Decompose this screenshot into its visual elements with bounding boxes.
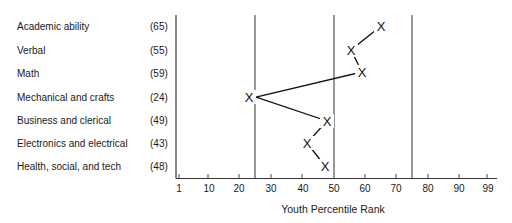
marker-verbal: X — [347, 43, 356, 58]
reference-lines — [255, 15, 412, 179]
marker-mechanical: X — [245, 90, 254, 105]
x-axis-ticks — [179, 174, 487, 178]
tick-label: 80 — [422, 183, 433, 195]
tick-label: 30 — [265, 183, 276, 195]
profile-line — [256, 26, 381, 166]
tick-label: 10 — [203, 183, 214, 195]
profile-chart: X X X X X X X — [0, 0, 512, 223]
tick-label: 40 — [297, 183, 308, 195]
marker-electronics: X — [303, 136, 312, 151]
tick-label: 99 — [482, 183, 493, 195]
tick-label: 1 — [176, 183, 182, 195]
marker-business: X — [323, 114, 332, 129]
tick-label: 20 — [233, 183, 244, 195]
x-axis-title: Youth Percentile Rank — [281, 203, 385, 215]
data-markers: X X X X X X X — [243, 19, 388, 174]
marker-health: X — [321, 159, 330, 174]
tick-label: 50 — [328, 183, 339, 195]
marker-math: X — [358, 65, 367, 80]
tick-label: 90 — [453, 183, 464, 195]
marker-academic: X — [377, 19, 386, 34]
tick-label: 60 — [359, 183, 370, 195]
tick-label: 70 — [390, 183, 401, 195]
